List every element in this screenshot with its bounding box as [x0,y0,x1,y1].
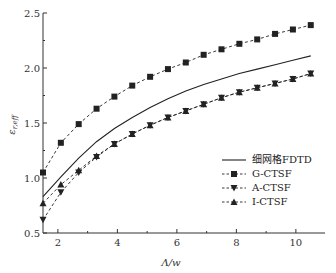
x-tick-label: 8 [233,237,239,248]
square-marker-icon [147,74,153,80]
y-tick-label: 2.0 [24,63,40,74]
series-g-ctsf [40,22,314,175]
square-marker-icon [201,52,207,58]
legend-label-i-ctsf: I-CTSF [252,196,288,207]
legend: 细网格FDTD G-CTSF A-CTSF I-CTSF [222,153,312,207]
square-marker-icon [219,46,225,52]
triangle-down-marker-icon [57,189,64,196]
triangle-up-marker-icon [40,200,47,207]
x-tick-label: 10 [290,237,303,248]
y-tick-label: 1.0 [24,173,40,184]
square-marker-icon [290,27,296,33]
square-marker-icon [183,60,189,66]
y-tick-label: 0.5 [24,228,40,239]
x-tick-label: 2 [55,237,61,248]
axes: 0.51.01.52.02.5246810 [24,8,325,249]
square-marker-icon [165,66,171,72]
legend-label-g-ctsf: G-CTSF [252,168,292,179]
y-axis-label-sub: r,eff [11,114,19,129]
x-tick-label: 4 [114,237,120,248]
square-marker-icon [58,140,64,146]
legend-label-a-ctsf: A-CTSF [251,182,291,193]
square-marker-icon [236,41,242,47]
y-tick-label: 1.5 [24,118,40,129]
x-tick-label: 6 [174,237,180,248]
triangle-up-marker-icon [57,181,64,188]
series-line [43,25,311,172]
x-axis-label: Λ/w [160,257,181,268]
square-marker-icon [308,22,314,28]
svg-text:εr,eff: εr,eff [6,114,19,134]
legend-label-fdtd: 细网格FDTD [252,153,312,165]
triangle-down-marker-icon [40,217,47,224]
chart: 0.51.01.52.02.5246810 细网格FDTD G-CTSF A-C… [0,0,336,273]
square-marker-icon [272,31,278,37]
square-marker-icon [76,121,82,127]
square-marker-icon [231,171,237,177]
square-marker-icon [40,170,46,176]
plot-area [40,22,315,223]
square-marker-icon [111,94,117,100]
y-tick-label: 2.5 [24,8,40,19]
square-marker-icon [254,36,260,42]
square-marker-icon [94,106,100,112]
y-axis-label: εr,eff [6,114,19,134]
square-marker-icon [129,83,135,89]
